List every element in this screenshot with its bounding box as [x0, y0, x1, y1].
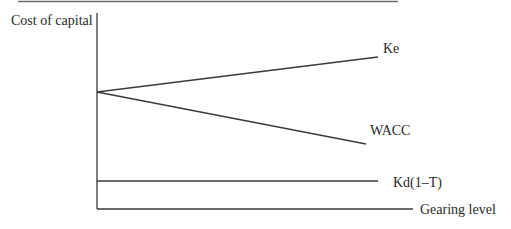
x-axis-label: Gearing level [420, 203, 496, 217]
chart-canvas [0, 0, 511, 229]
wacc-line [97, 92, 366, 144]
kd-label: Kd(1–T) [393, 176, 442, 190]
ke-label: Ke [383, 42, 399, 56]
y-axis-label: Cost of capital [11, 14, 93, 28]
wacc-label: WACC [370, 124, 410, 138]
ke-line [97, 57, 378, 92]
